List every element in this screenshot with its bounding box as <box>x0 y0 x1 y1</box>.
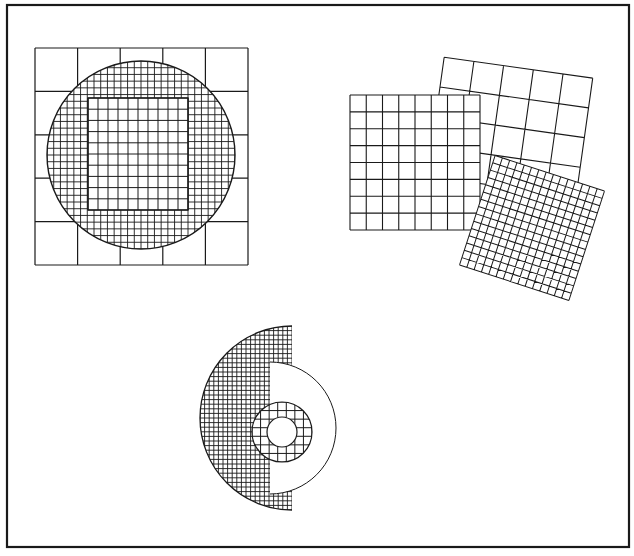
center-hole <box>267 417 297 447</box>
figure-canvas <box>0 0 634 556</box>
panel-circle-on-square <box>35 48 248 265</box>
medium-square <box>350 95 480 230</box>
grid-illustration <box>0 0 634 556</box>
